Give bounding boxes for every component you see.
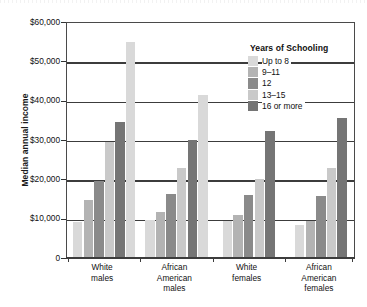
x-axis-labels: WhitemalesAfricanAmericanmalesWhitefemal… (66, 262, 355, 307)
x-axis-group-label: AfricanAmericanfemales (283, 262, 355, 294)
legend-item: 16 or more (248, 101, 360, 112)
bar (188, 140, 197, 258)
y-axis-tick-mark (61, 140, 66, 141)
y-axis-tick-mark (61, 61, 66, 62)
legend-label: 12 (262, 78, 273, 88)
x-axis-group-label-line: males (138, 283, 210, 294)
x-axis-group-label-line: American (283, 273, 355, 284)
bar (145, 220, 154, 258)
legend-label: 16 or more (262, 101, 305, 111)
legend-swatch (248, 56, 258, 66)
y-axis-tick-mark (61, 179, 66, 180)
bar (156, 212, 165, 258)
legend-swatch (248, 67, 258, 77)
bar (73, 222, 82, 258)
y-axis-tick-label: $60,000 (12, 17, 60, 27)
legend-title: Years of Schooling (250, 43, 360, 53)
bar (126, 42, 135, 258)
bar (327, 168, 336, 258)
x-axis-group-label-line: females (283, 283, 355, 294)
y-axis-tick-label: $20,000 (12, 174, 60, 184)
legend-swatch (248, 78, 258, 88)
y-axis-tick-labels: $60,000$50,000$40,000$30,000$20,000$10,0… (12, 0, 60, 307)
x-axis-tick-mark (352, 258, 353, 262)
bar (115, 122, 124, 258)
bar (223, 221, 232, 258)
y-axis-tick-mark (61, 219, 66, 220)
legend-item: Up to 8 (248, 55, 360, 66)
y-axis-tick-label: $30,000 (12, 135, 60, 145)
x-axis-line (66, 257, 355, 259)
legend-item: 13–15 (248, 89, 360, 100)
bar (177, 168, 186, 258)
x-axis-group-label: AfricanAmericanmales (138, 262, 210, 294)
bar (84, 200, 93, 258)
legend-item: 12 (248, 78, 360, 89)
x-axis-group-label-line: African (138, 262, 210, 273)
bar (105, 142, 114, 258)
y-axis-tick-label: 0 (12, 253, 60, 263)
legend-item: 9–11 (248, 66, 360, 77)
legend-label: Up to 8 (262, 56, 291, 66)
bar (244, 195, 253, 258)
bar (306, 221, 315, 258)
y-axis-tick-mark (61, 101, 66, 102)
y-axis-tick-mark (61, 22, 66, 23)
bar (316, 196, 325, 258)
x-axis-group-label-line: African (283, 262, 355, 273)
y-axis-tick-label: $50,000 (12, 56, 60, 66)
x-axis-group-label-line: males (66, 273, 138, 284)
x-axis-group-label-line: White (66, 262, 138, 273)
x-axis-group-label-line: females (211, 273, 283, 284)
x-axis-group-label-line: American (138, 273, 210, 284)
legend: Years of Schooling Up to 89–111213–1516 … (248, 43, 360, 112)
legend-swatch (248, 101, 258, 111)
legend-swatch (248, 90, 258, 100)
y-axis-tick-label: $10,000 (12, 213, 60, 223)
x-axis-group-label: Whitefemales (211, 262, 283, 283)
x-axis-group-label: Whitemales (66, 262, 138, 283)
legend-items: Up to 89–111213–1516 or more (248, 55, 360, 112)
y-axis-tick-mark (61, 258, 66, 259)
bar (265, 131, 274, 258)
bar (337, 118, 346, 258)
bar (255, 179, 264, 258)
x-axis-group-label-line: White (211, 262, 283, 273)
bar (233, 215, 242, 258)
legend-label: 9–11 (262, 67, 282, 77)
legend-label: 13–15 (262, 90, 287, 100)
y-axis-tick-label: $40,000 (12, 95, 60, 105)
bar-chart: Median annual income $60,000$50,000$40,0… (0, 0, 367, 307)
bar (166, 194, 175, 258)
bar (94, 181, 103, 258)
bar (295, 225, 304, 258)
bar (198, 95, 207, 258)
